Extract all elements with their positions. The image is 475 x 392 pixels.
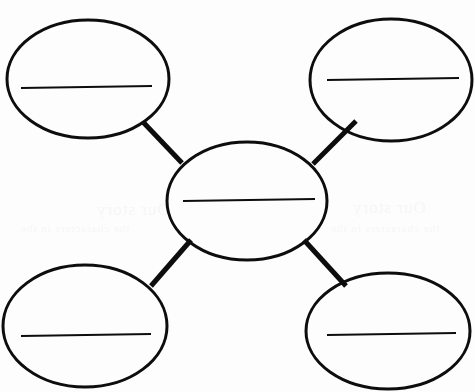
connector-center-to-top-right bbox=[313, 121, 356, 164]
center-oval-group[interactable] bbox=[167, 142, 327, 260]
top-left-oval-group[interactable] bbox=[7, 20, 169, 138]
oval-group bbox=[3, 19, 472, 389]
organizer-canvas bbox=[0, 0, 475, 392]
center-writing-line[interactable] bbox=[183, 199, 315, 201]
bottom-right-oval[interactable] bbox=[306, 273, 470, 389]
top-right-oval-group[interactable] bbox=[310, 19, 472, 141]
top-left-writing-line[interactable] bbox=[21, 86, 152, 88]
graphic-organizer-worksheet: Our story the characters in the Our stor… bbox=[0, 0, 475, 392]
bottom-left-oval-group[interactable] bbox=[3, 265, 167, 387]
connector-center-to-top-left bbox=[143, 122, 182, 163]
bottom-right-oval-group[interactable] bbox=[306, 273, 470, 389]
bottom-right-writing-line[interactable] bbox=[327, 333, 456, 335]
connector-center-to-bottom-right bbox=[304, 240, 346, 286]
connector-center-to-bottom-left bbox=[151, 240, 191, 286]
top-left-oval[interactable] bbox=[7, 20, 169, 138]
bottom-left-writing-line[interactable] bbox=[21, 334, 151, 336]
bottom-left-oval[interactable] bbox=[3, 265, 167, 387]
top-right-writing-line[interactable] bbox=[327, 78, 459, 80]
